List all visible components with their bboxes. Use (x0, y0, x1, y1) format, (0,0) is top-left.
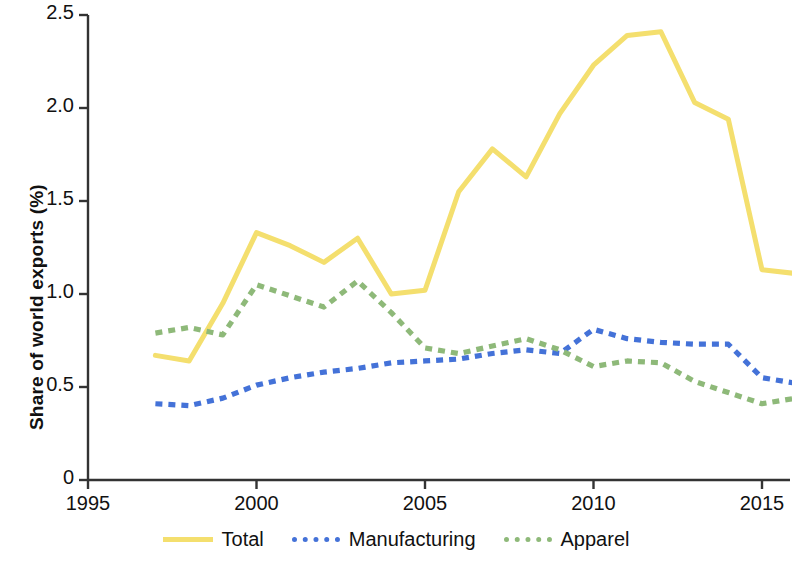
chart-container: Share of world exports (%) 00.51.01.52.0… (0, 0, 792, 564)
series-line-total (155, 32, 792, 361)
axis-lines (79, 15, 790, 489)
legend-label: Apparel (561, 528, 630, 551)
data-series-group (155, 32, 792, 406)
legend-label: Total (222, 528, 264, 551)
legend-item-apparel[interactable]: Apparel (504, 528, 630, 551)
plot-area (0, 0, 792, 564)
series-line-apparel (155, 281, 792, 404)
legend-swatch-manufacturing-icon (292, 537, 340, 542)
legend-item-total[interactable]: Total (163, 528, 264, 551)
legend-swatch-total-icon (163, 537, 213, 542)
legend-label: Manufacturing (349, 528, 476, 551)
legend-item-manufacturing[interactable]: Manufacturing (292, 528, 476, 551)
legend-swatch-apparel-icon (504, 537, 552, 542)
series-line-manufacturing (155, 329, 792, 405)
chart-legend: TotalManufacturingApparel (0, 528, 792, 551)
